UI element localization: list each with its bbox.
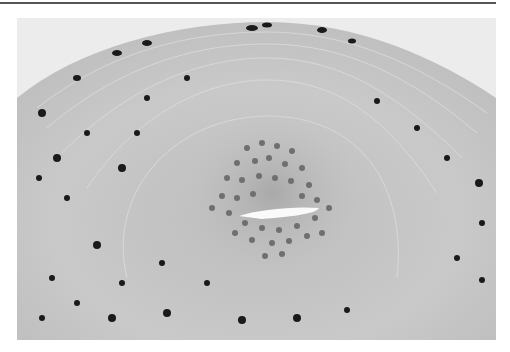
top-rule [0,2,496,4]
micrograph-figure [17,18,496,340]
side-label [0,290,12,330]
micrograph-image [17,18,496,340]
